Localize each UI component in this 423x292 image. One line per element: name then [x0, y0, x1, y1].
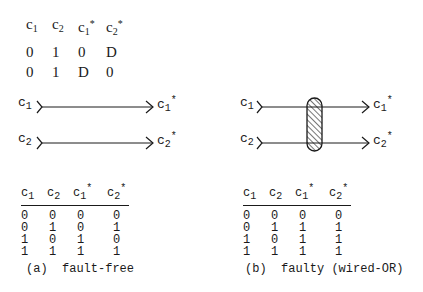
truth-table-fault-free: c1 c2 c1* c2* 0000 0101 1010 1111: [21, 182, 129, 258]
truth-table-faulty: c1 c2 c1* c2* 0000 0111 1011 1111: [243, 182, 351, 258]
table-row: 1111: [21, 246, 129, 258]
header-c1: c1: [21, 186, 47, 202]
table-header: c1 c2 c1* c2*: [21, 182, 129, 202]
caption-fault-free: (a) fault-free: [26, 262, 134, 276]
header-c1-star: c1*: [295, 183, 329, 202]
diagram-a-line-c1: [37, 101, 153, 113]
diagram-b-input-c2: c2: [240, 131, 254, 148]
header-c1-star: c1*: [73, 183, 107, 202]
table-divider: [21, 205, 129, 206]
header-c2: c2: [47, 186, 73, 202]
diagram-b-output-c2-star: c2*: [373, 131, 393, 150]
table-row: 1111: [243, 246, 351, 258]
diagram-b-input-c1: c1: [240, 95, 254, 112]
header-c1: c1: [243, 186, 269, 202]
table-divider: [243, 205, 351, 206]
table-header: c1 c2 c1* c2*: [243, 182, 351, 202]
header-c2-star: c2*: [329, 183, 351, 202]
diagram-a-line-c2: [37, 137, 153, 149]
header-c2-star: c2*: [107, 183, 129, 202]
diagram-b-output-c1-star: c1*: [373, 95, 393, 114]
header-c2: c2: [269, 186, 295, 202]
caption-faulty-wired-or: (b) faulty (wired-OR): [245, 262, 403, 276]
bridging-fault-icon: [307, 98, 322, 151]
